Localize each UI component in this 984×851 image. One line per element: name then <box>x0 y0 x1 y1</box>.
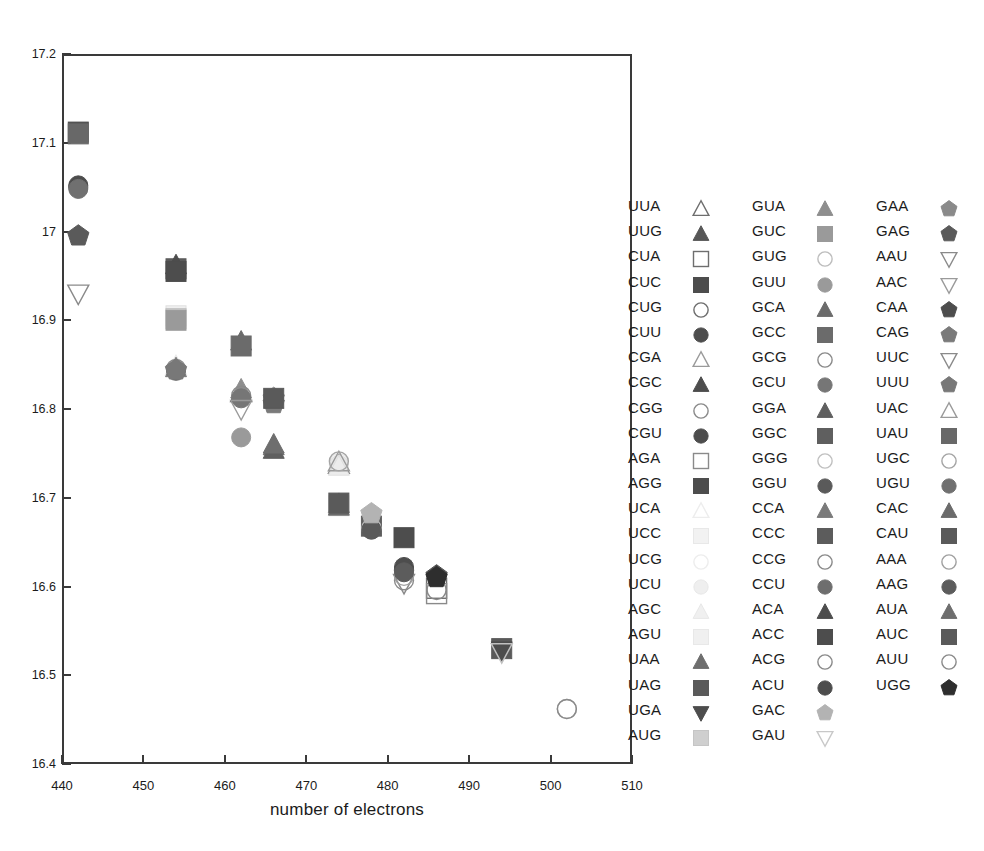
legend-item[interactable]: UAU <box>876 423 984 448</box>
legend-item[interactable]: UAC <box>876 398 984 423</box>
legend-marker-square-icon <box>814 525 836 547</box>
legend-item[interactable]: AAA <box>876 549 984 574</box>
legend-item-label: GGG <box>752 449 788 466</box>
legend-item-label: CCU <box>752 575 785 592</box>
legend-item[interactable]: CGA <box>628 347 738 372</box>
legend-item[interactable]: UUC <box>876 347 984 372</box>
legend-item[interactable]: GAU <box>752 725 862 750</box>
legend-item-label: CGC <box>628 373 662 390</box>
legend-item[interactable]: GGA <box>752 398 862 423</box>
legend-item[interactable]: CCC <box>752 523 862 548</box>
legend-item[interactable]: UGG <box>876 675 984 700</box>
legend-marker-pentagon-icon <box>938 223 960 245</box>
legend-marker-pentagon-icon <box>938 299 960 321</box>
legend-item[interactable]: UCA <box>628 498 738 523</box>
legend-item[interactable]: CUG <box>628 297 738 322</box>
legend-item[interactable]: UGU <box>876 473 984 498</box>
legend-item-label: AGG <box>628 474 662 491</box>
legend-marker-triangle-up-icon <box>690 223 712 245</box>
legend-item[interactable]: CGC <box>628 372 738 397</box>
legend-item[interactable]: AGU <box>628 624 738 649</box>
legend-marker-circle-icon <box>938 450 960 472</box>
legend-item[interactable]: UUU <box>876 372 984 397</box>
legend-marker-triangle-down-icon <box>938 349 960 371</box>
legend-item[interactable]: GGC <box>752 423 862 448</box>
x-tick-label: 480 <box>377 778 399 793</box>
legend-marker-triangle-up-icon <box>690 349 712 371</box>
x-tick-label: 510 <box>621 778 643 793</box>
legend-item[interactable]: CAC <box>876 498 984 523</box>
legend-item[interactable]: CCA <box>752 498 862 523</box>
legend-item[interactable]: UCU <box>628 574 738 599</box>
legend-item[interactable]: ACA <box>752 599 862 624</box>
legend-item-label: GGU <box>752 474 787 491</box>
legend-item[interactable]: GUU <box>752 272 862 297</box>
legend-item[interactable]: UAG <box>628 675 738 700</box>
legend-item[interactable]: AGG <box>628 473 738 498</box>
legend-item[interactable]: UUG <box>628 221 738 246</box>
legend-item[interactable]: ACG <box>752 649 862 674</box>
legend-item[interactable]: AAC <box>876 272 984 297</box>
legend-item-label: GAA <box>876 197 909 214</box>
legend-item[interactable]: GCU <box>752 372 862 397</box>
legend-item-label: UAC <box>876 399 909 416</box>
legend-item[interactable]: GAA <box>876 196 984 221</box>
legend-item[interactable]: ACU <box>752 675 862 700</box>
legend-marker-triangle-down-icon <box>938 274 960 296</box>
legend-marker-circle-icon <box>814 349 836 371</box>
legend-item[interactable]: CUC <box>628 272 738 297</box>
y-tick-label: 16.7 <box>10 491 56 505</box>
legend-item[interactable]: AGA <box>628 448 738 473</box>
scatter-point <box>395 563 414 582</box>
legend-marker-pentagon-icon <box>938 198 960 220</box>
legend-item[interactable]: UGA <box>628 700 738 725</box>
legend-marker-triangle-up-icon <box>938 400 960 422</box>
legend-item[interactable]: CAG <box>876 322 984 347</box>
legend-item[interactable]: GUG <box>752 246 862 271</box>
legend-marker-triangle-up-icon <box>814 400 836 422</box>
legend-item[interactable]: AUG <box>628 725 738 750</box>
legend-item[interactable]: GAG <box>876 221 984 246</box>
legend-marker-circle-icon <box>814 576 836 598</box>
legend-item-label: GUA <box>752 197 785 214</box>
legend-item[interactable]: GUA <box>752 196 862 221</box>
legend-marker-triangle-down-icon <box>814 727 836 749</box>
legend-item[interactable]: ACC <box>752 624 862 649</box>
legend-item[interactable]: AGC <box>628 599 738 624</box>
legend-item[interactable]: CAA <box>876 297 984 322</box>
legend-item[interactable]: CAU <box>876 523 984 548</box>
legend-item[interactable]: CCU <box>752 574 862 599</box>
legend-item[interactable]: CCG <box>752 549 862 574</box>
legend-item[interactable]: CGU <box>628 423 738 448</box>
legend-item[interactable]: AAU <box>876 246 984 271</box>
legend-item[interactable]: GAC <box>752 700 862 725</box>
legend-item[interactable]: GUC <box>752 221 862 246</box>
legend-item[interactable]: CGG <box>628 398 738 423</box>
legend-item-label: GAG <box>876 222 910 239</box>
legend-item[interactable]: GCA <box>752 297 862 322</box>
legend-item[interactable]: UGC <box>876 448 984 473</box>
legend-item-label: UCC <box>628 524 661 541</box>
legend-item[interactable]: UCC <box>628 523 738 548</box>
legend-marker-circle-icon <box>690 425 712 447</box>
legend-item-label: ACU <box>752 676 785 693</box>
legend-marker-triangle-up-icon <box>690 198 712 220</box>
legend-item[interactable]: CUU <box>628 322 738 347</box>
legend-item-label: UGC <box>876 449 910 466</box>
legend-item[interactable]: AAG <box>876 574 984 599</box>
legend-item[interactable]: UUA <box>628 196 738 221</box>
legend-item[interactable]: GCG <box>752 347 862 372</box>
legend-item[interactable]: AUU <box>876 649 984 674</box>
legend-item[interactable]: UCG <box>628 549 738 574</box>
legend-item[interactable]: AUC <box>876 624 984 649</box>
legend-marker-square-icon <box>690 727 712 749</box>
legend-item-label: ACG <box>752 650 785 667</box>
legend-item-label: AAU <box>876 247 908 264</box>
legend-item[interactable]: GGG <box>752 448 862 473</box>
legend-marker-triangle-up-icon <box>938 500 960 522</box>
legend-item[interactable]: GGU <box>752 473 862 498</box>
legend-item[interactable]: AUA <box>876 599 984 624</box>
legend-item[interactable]: CUA <box>628 246 738 271</box>
legend-item[interactable]: UAA <box>628 649 738 674</box>
legend-item[interactable]: GCC <box>752 322 862 347</box>
